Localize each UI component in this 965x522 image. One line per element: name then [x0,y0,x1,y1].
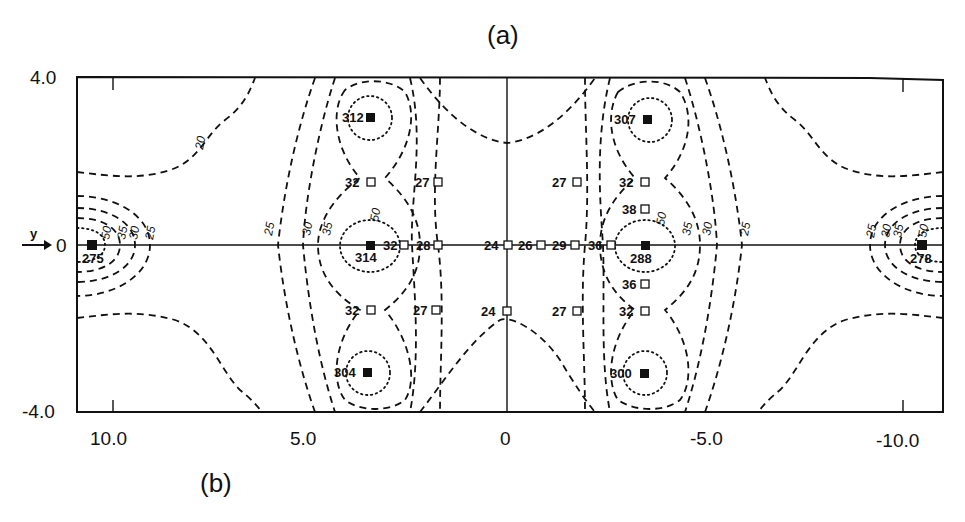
svg-text:36: 36 [622,277,636,292]
svg-text:32: 32 [383,238,397,253]
svg-text:25: 25 [261,221,277,238]
point-label: 275 [82,251,104,266]
svg-text:50: 50 [915,223,931,239]
svg-text:35: 35 [319,221,335,237]
filled-point-marker [363,368,372,377]
svg-text:29: 29 [552,238,566,253]
contour-plot: 4.0 0 -4.0 y 10.0 5.0 0 -5.0 -10.0 [0,0,965,522]
svg-text:50: 50 [653,211,669,227]
svg-text:26: 26 [518,238,532,253]
svg-text:50: 50 [98,225,114,241]
svg-text:30: 30 [299,221,315,237]
y-tick-label: -4.0 [22,401,55,422]
filled-point-marker [643,115,652,124]
svg-text:27: 27 [415,175,429,190]
svg-text:25: 25 [737,221,753,238]
svg-text:32: 32 [619,304,633,319]
svg-text:27: 27 [552,175,566,190]
x-tick-label: -10.0 [876,430,919,451]
svg-text:30: 30 [126,225,142,241]
svg-text:38: 38 [622,202,636,217]
filled-point-marker [641,241,650,250]
y-tick-label: 0 [56,235,67,256]
filled-point-marker [640,369,649,378]
svg-text:35: 35 [890,223,906,239]
svg-text:28: 28 [416,238,430,253]
svg-text:50: 50 [367,207,383,223]
svg-text:25: 25 [863,223,879,240]
x-tick-label: 10.0 [90,428,127,449]
x-tick-label: 5.0 [290,428,316,449]
point-label: 307 [614,112,636,127]
filled-point-marker [366,241,375,250]
svg-text:32: 32 [345,303,359,318]
svg-text:27: 27 [413,303,427,318]
svg-text:25: 25 [142,225,158,242]
point-label: 278 [910,251,932,266]
y-axis-arrow-icon [22,240,52,250]
y-axis-label: y [30,226,38,241]
filled-point-marker [366,113,375,122]
filled-point-marker [917,240,927,250]
point-label: 304 [334,365,356,380]
svg-text:24: 24 [481,304,496,319]
svg-text:27: 27 [552,304,566,319]
x-tick-label: 0 [500,428,511,449]
y-tick-label: 4.0 [30,67,56,88]
svg-text:20: 20 [192,135,208,152]
point-label: 312 [342,110,364,125]
filled-point-marker [87,240,97,250]
svg-text:32: 32 [619,175,633,190]
svg-text:30: 30 [699,221,715,237]
svg-text:24: 24 [484,238,499,253]
point-label: 300 [610,366,632,381]
point-label: 288 [630,251,652,266]
point-label: 314 [355,250,377,265]
x-tick-label: -5.0 [690,428,723,449]
svg-text:36: 36 [588,238,602,253]
svg-text:35: 35 [679,221,695,237]
svg-text:32: 32 [345,175,359,190]
contour-level-labels: 20 25 30 35 50 50 35 30 25 50 35 30 25 2… [98,135,931,242]
